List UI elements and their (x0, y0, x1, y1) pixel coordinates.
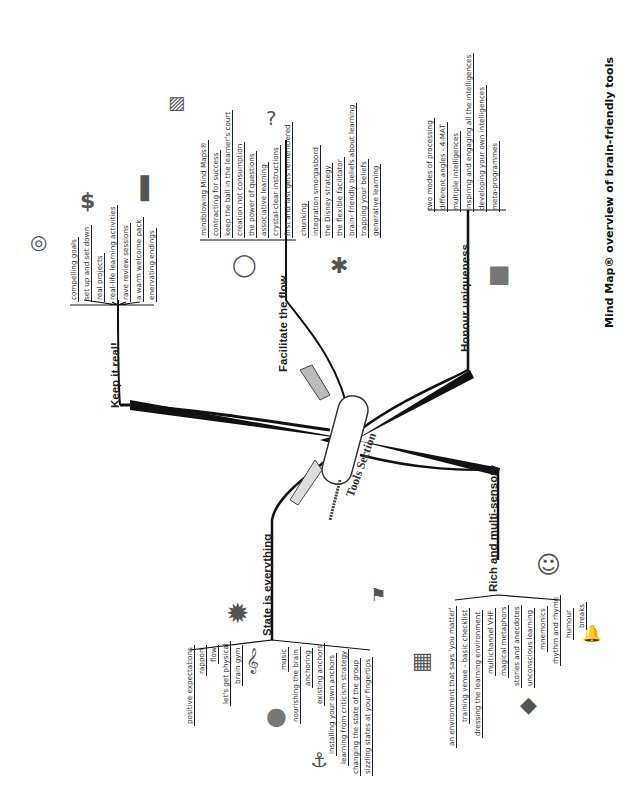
leaf: magical metaphors (500, 605, 509, 678)
window-icon: ▦ (412, 650, 433, 672)
leaf: the flexible facilitator (336, 157, 345, 238)
bug-icon: ✱ (330, 255, 348, 277)
leaf: dressing the learning environment (474, 610, 483, 738)
leaf: rave review sessions (122, 223, 131, 302)
leaf: real projects (96, 253, 105, 302)
leaf: creation not consumption (236, 142, 245, 238)
leaf: brain- friendly beliefs about learning (348, 103, 357, 238)
leaf: developing your own intelligences (478, 85, 487, 212)
leaf: contracting for success (212, 150, 221, 238)
branch-title-honour-uniqueness: Honour uniqueness (460, 244, 472, 352)
leaf: multichannel VHF (487, 608, 496, 676)
leaf: nourishing the brain (292, 647, 301, 724)
anchor-icon: ⚓ (310, 750, 328, 770)
podium-icon: ▐ (132, 178, 149, 200)
rubiks-cube-icon: ◆ (520, 694, 537, 716)
leaf: humour (565, 608, 574, 640)
leaf: inspiring and engaging all the intellige… (465, 53, 474, 212)
leaf: rhythm and rhyme (552, 595, 561, 666)
leaf: unconscious learning (526, 608, 535, 688)
mind-map: Tools Section Keep it real! Facilitate t… (0, 0, 634, 802)
leaf: flow (210, 645, 219, 664)
leaf: training venue - basic checklist (461, 608, 470, 724)
sun-icon: ✹ (226, 600, 249, 628)
jack-in-the-box-icon: ■ (488, 262, 511, 286)
leaf: integration smorgasbord (312, 145, 321, 238)
leaf: positive expectations (186, 645, 195, 726)
branch-title-facilitate-the-flow: Facilitate the flow (278, 276, 290, 373)
leaf: music (280, 647, 289, 672)
leaf: two modes of processing (426, 118, 435, 212)
leaf: trapping your beliefs (360, 159, 369, 238)
dollar-icon: $ (80, 190, 95, 212)
branch-title-state-is-everything: State is everything (262, 534, 274, 636)
leaf: first and last gets remembered (284, 122, 293, 238)
leaf: generative learning (372, 164, 381, 238)
leaf: enervating endings (148, 228, 157, 302)
leaf: set up and set down (83, 225, 92, 302)
laughing-face-icon: ☺ (536, 553, 561, 577)
leaf: compelling goals (70, 237, 79, 302)
leaf: anchoring (304, 648, 313, 688)
branch-title-rich-multi-sensory: Rich and multi-sensory (488, 465, 500, 592)
leaf: let's get physical (222, 641, 231, 706)
leaf: crystal-clear instructions (272, 145, 281, 238)
baseball-icon: ◯ (232, 254, 257, 276)
picture-icon: ▨ (168, 94, 185, 112)
leaf: installing your own anchors (328, 653, 337, 756)
plate-icon: ● (266, 704, 287, 728)
leaf: associative learning (260, 162, 269, 238)
branch-title-keep-it-real: Keep it real! (110, 342, 122, 408)
leaf: the Disney strategy (324, 163, 333, 238)
leaf: real-life learning activities (109, 205, 118, 302)
leaf: mindblowing Mind Maps® (200, 140, 209, 238)
question-mark-icon: ? (266, 108, 277, 128)
leaf: rapport (198, 645, 207, 676)
leaf: keep the ball in the learner's court (224, 110, 233, 238)
bell-icon: 🔔 (582, 626, 602, 642)
leaf: meta-programmes (491, 141, 500, 212)
leaf: stories and anecdotes (513, 605, 522, 688)
leaf: mnemonics (539, 606, 548, 652)
leaf: changing the state of the group (352, 658, 361, 776)
target-icon: ◎ (30, 232, 47, 252)
leaf: multiple intelligences (452, 131, 461, 212)
leaf: existing anchors (316, 643, 325, 706)
figure-caption: Mind Map® overview of brain-friendly too… (604, 57, 615, 328)
leaf: learning from criticism strategy (340, 649, 349, 766)
leaf: different angles - 4-MAT (439, 122, 448, 212)
leaf: an environment that says 'you matter' (448, 606, 457, 748)
leaf: sizzling states at your fingertips (364, 657, 373, 776)
leaf: the power of questions (248, 151, 257, 238)
leaf: a warm welcome pack (135, 217, 144, 302)
leaf: brain gym (234, 645, 243, 686)
leaf: chunking (300, 201, 309, 238)
hot-flag-icon: ⚑ (370, 586, 386, 604)
treble-clef-icon: 𝄞 (246, 650, 259, 672)
